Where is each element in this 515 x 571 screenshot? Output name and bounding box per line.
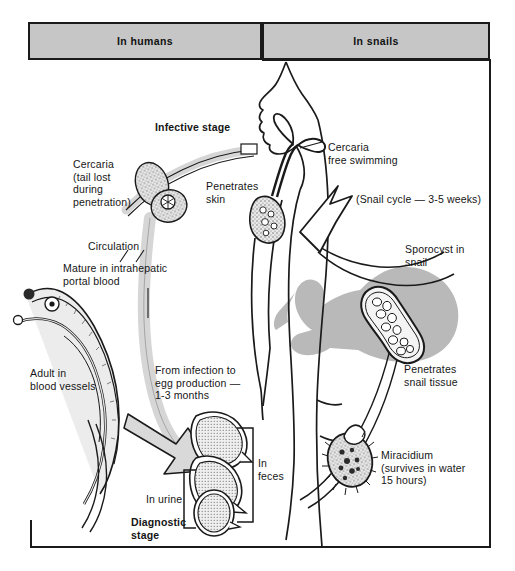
label-circulation: Circulation — [88, 240, 139, 253]
adult-worm-pair — [14, 289, 120, 533]
label-infection-to-egg: From infection to egg production — 1-3 m… — [155, 364, 240, 402]
label-snail-cycle: (Snail cycle — 3-5 weeks) — [356, 193, 481, 206]
label-mature-portal-blood: Mature in intrahepatic portal blood — [63, 262, 167, 287]
label-sporocyst-in-snail: Sporocyst in snail — [405, 243, 465, 268]
label-cercaria-free-swimming: Cercaria free swimming — [328, 141, 398, 166]
label-miracidium: Miracidium (survives in water 15 hours) — [381, 449, 465, 487]
label-infective-stage: Infective stage — [155, 121, 230, 134]
label-in-urine: In urine — [146, 493, 182, 506]
circulation-vessel-band — [144, 218, 196, 462]
label-penetrates-snail-tissue: Penetrates snail tissue — [404, 363, 458, 388]
label-penetrates-skin: Penetrates skin — [206, 180, 258, 205]
life-cycle-diagram: In humans In snails — [0, 0, 515, 571]
label-diagnostic-stage: Diagnostic stage — [131, 516, 186, 541]
label-in-feces: In feces — [258, 457, 284, 482]
label-adult-blood-vessels: Adult in blood vessels — [30, 367, 96, 392]
label-cercaria-tail-lost: Cercaria (tail lost during penetration) — [73, 158, 131, 208]
